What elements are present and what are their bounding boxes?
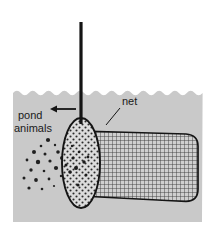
pond-animal-speck-icon: [85, 174, 88, 177]
pond-animal-speck-icon: [48, 178, 51, 181]
pond-animal-speck-icon: [56, 150, 60, 154]
pond-animal-speck-icon: [27, 186, 30, 189]
pond-animal-speck-icon: [41, 188, 44, 191]
pond-animal-speck-icon: [78, 151, 81, 154]
pond-animal-speck-icon: [53, 185, 55, 187]
pond-animal-speck-icon: [71, 145, 73, 147]
pond-animal-speck-icon: [82, 160, 85, 163]
pond-animal-speck-icon: [71, 156, 74, 159]
pond-animal-speck-icon: [40, 145, 43, 148]
pond-animal-speck-icon: [43, 170, 46, 173]
diagram-canvas: net pond animals: [0, 0, 214, 235]
pond-animals-label-line1: pond: [18, 109, 42, 121]
pond-animal-speck-icon: [87, 156, 90, 159]
pond-animal-speck-icon: [34, 178, 38, 182]
pond-animal-speck-icon: [54, 166, 58, 170]
pond-animal-speck-icon: [32, 150, 36, 154]
pond-animal-speck-icon: [26, 159, 29, 162]
pond-animal-speck-icon: [44, 153, 47, 156]
pond-animal-speck-icon: [74, 166, 78, 170]
pond-animal-speck-icon: [65, 164, 68, 167]
pond-animal-speck-icon: [29, 168, 32, 171]
pond-animal-speck-icon: [54, 144, 56, 146]
pond-net-figure: net pond animals: [0, 0, 214, 235]
pond-animal-speck-icon: [46, 138, 50, 142]
pond-animal-speck-icon: [48, 159, 51, 162]
pond-animal-speck-icon: [68, 170, 72, 174]
net-label: net: [122, 95, 137, 107]
pond-animal-speck-icon: [36, 160, 40, 164]
pond-animal-speck-icon: [23, 177, 26, 180]
pond-animal-speck-icon: [76, 183, 79, 186]
net-mouth-ellipse-icon: [62, 118, 100, 208]
pond-animals-label-line2: animals: [14, 122, 52, 134]
